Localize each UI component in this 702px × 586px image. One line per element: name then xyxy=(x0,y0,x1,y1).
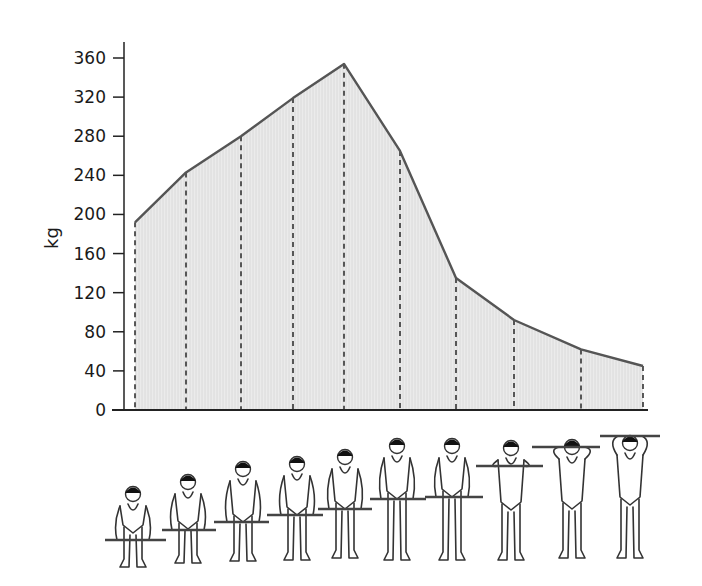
y-tick-label: 200 xyxy=(74,204,106,224)
area-fill xyxy=(135,64,643,410)
weightlifter-figure xyxy=(425,439,483,561)
y-tick-label: 40 xyxy=(84,361,106,381)
weightlifter-figure xyxy=(532,440,600,559)
weightlifter-figure xyxy=(105,487,166,568)
y-tick-label: 160 xyxy=(74,244,106,264)
y-tick-label: 0 xyxy=(95,400,106,420)
y-tick-label: 240 xyxy=(74,165,106,185)
y-tick-label: 320 xyxy=(74,87,106,107)
weightlifter-figure xyxy=(214,462,269,562)
weightlifter-figure xyxy=(162,475,216,564)
weightlifter-figure xyxy=(370,439,426,561)
weightlifter-figure xyxy=(318,450,372,559)
weightlifter-figure xyxy=(600,436,660,559)
y-axis-label: kg xyxy=(41,227,62,249)
y-tick-label: 280 xyxy=(74,126,106,146)
weightlifter-figure xyxy=(476,441,543,561)
weightlifter-figure xyxy=(267,457,323,561)
y-tick-label: 80 xyxy=(84,322,106,342)
weightlifter-figures xyxy=(105,436,660,568)
y-tick-label: 120 xyxy=(74,283,106,303)
force-chart: 04080120160200240280320360 kg xyxy=(0,0,702,586)
y-tick-label: 360 xyxy=(74,48,106,68)
